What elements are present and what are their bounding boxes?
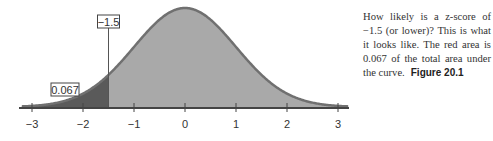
tick-label: 1: [233, 118, 239, 130]
normal-curve-chart: −3−2−10123 −1.5 0.067: [0, 0, 360, 141]
tick-label: −2: [77, 118, 90, 130]
tick-label: 3: [335, 118, 341, 130]
tick-label: −3: [26, 118, 39, 130]
tick-label: −1: [128, 118, 141, 130]
remainder-area: [109, 8, 349, 107]
tick-label: 2: [284, 118, 290, 130]
area-value-label: 0.067: [51, 84, 79, 96]
figure-caption: How likely is a z-score of −1.5 (or lowe…: [363, 10, 491, 80]
z-value-label: −1.5: [98, 16, 120, 28]
figure-label: Figure 20.1: [411, 67, 464, 78]
tick-label: 0: [182, 118, 188, 130]
